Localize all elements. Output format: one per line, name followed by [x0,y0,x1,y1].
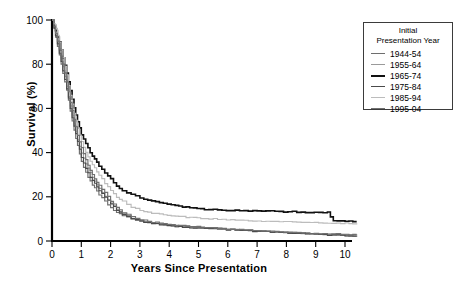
legend-swatch-icon [371,75,385,77]
survival-curves [52,20,357,236]
curve-1944-54 [52,20,357,236]
curve-1955-64 [52,20,357,235]
x-tick-label: 5 [196,249,202,260]
x-tick-labels: 012345678910 [49,249,351,260]
legend-swatch-icon [371,97,385,98]
legend-item-label: 1985-94 [390,93,421,103]
x-tick-label: 2 [108,249,114,260]
legend-item-label: 1995-04 [390,104,421,114]
x-tick-label: 10 [339,249,351,260]
legend-item-1955-64: 1955-64 [364,59,452,70]
y-tick-label: 100 [26,15,43,26]
x-tick-label: 9 [313,249,319,260]
legend-item-1995-04: 1995-04 [364,103,452,114]
legend-item-label: 1955-64 [390,60,421,70]
x-tick-label: 0 [49,249,55,260]
legend-item-1985-94: 1985-94 [364,92,452,103]
x-tick-label: 3 [137,249,143,260]
legend-items: 1944-541955-641965-741975-841985-941995-… [364,48,452,114]
legend-title: Initial Presentation Year [364,23,452,46]
legend-swatch-icon [371,64,385,65]
chart-root: 020406080100 012345678910 Survival (%) Y… [0,0,465,284]
x-tick-label: 8 [284,249,290,260]
legend-title-line1: Initial [364,26,452,36]
legend: Initial Presentation Year 1944-541955-64… [363,22,453,110]
legend-title-line2: Presentation Year [364,36,452,46]
y-axis-title: Survival (%) [25,54,37,174]
legend-item-label: 1975-84 [390,82,421,92]
legend-item-1965-74: 1965-74 [364,70,452,81]
legend-item-label: 1944-54 [390,49,421,59]
curve-1975-84 [52,20,357,236]
y-tick-label: 0 [37,236,43,247]
curve-1995-04 [52,20,357,235]
curve-1985-94 [52,20,357,224]
legend-item-label: 1965-74 [390,71,421,81]
legend-swatch-icon [371,53,385,54]
x-axis-title: Years Since Presentation [52,262,346,274]
legend-item-1944-54: 1944-54 [364,48,452,59]
x-tick-label: 6 [225,249,231,260]
x-tick-label: 1 [79,249,85,260]
x-tick-label: 7 [254,249,260,260]
x-tick-label: 4 [166,249,172,260]
legend-swatch-icon [371,86,385,87]
legend-swatch-icon [371,108,385,109]
legend-item-1975-84: 1975-84 [364,81,452,92]
y-tick-label: 20 [32,191,44,202]
